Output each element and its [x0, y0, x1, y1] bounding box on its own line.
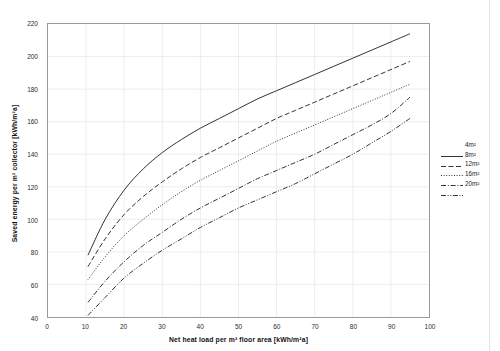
- legend-line-sample-icon: [441, 173, 463, 174]
- x-axis-tick-label: 40: [180, 323, 220, 330]
- legend-line-sample-icon: [441, 183, 463, 184]
- y-axis-tick-label: 60: [8, 282, 38, 289]
- data-series-lines: [48, 24, 429, 317]
- y-axis-group: Saved energy per m² collector [kWh/m²a] …: [0, 0, 47, 351]
- y-axis-tick-label: 40: [8, 315, 38, 322]
- y-axis-tick-label: 220: [8, 20, 38, 27]
- y-axis-title: Saved energy per m² collector [kWh/m²a]: [11, 74, 18, 274]
- legend-line-sample-icon: [441, 154, 463, 155]
- x-axis-tick-label: 60: [257, 323, 297, 330]
- legend-item-label: 12m²: [465, 159, 479, 168]
- legend-item-label: 20m²: [465, 179, 479, 188]
- legend-line-sample-icon: [441, 144, 463, 145]
- series-line-1: [88, 61, 410, 266]
- series-line-3: [88, 97, 410, 302]
- y-axis-tick-label: 120: [8, 183, 38, 190]
- x-axis-tick-label: 30: [142, 323, 182, 330]
- y-axis-tick-label: 160: [8, 118, 38, 125]
- x-axis-tick-label: 100: [410, 323, 450, 330]
- legend-line-sample-icon: [441, 163, 463, 164]
- y-axis-tick-label: 200: [8, 52, 38, 59]
- plot-area: [47, 23, 430, 318]
- y-axis-tick-label: 180: [8, 85, 38, 92]
- x-axis-tick-label: 90: [372, 323, 412, 330]
- y-axis-tick-label: 140: [8, 151, 38, 158]
- y-axis-tick-label: 100: [8, 216, 38, 223]
- series-line-2: [88, 84, 410, 279]
- legend-item[interactable]: 4m²: [441, 140, 497, 150]
- x-axis-title: Net heat load per m² floor area [kWh/m²a…: [47, 336, 430, 343]
- chart-figure: Saved energy per m² collector [kWh/m²a] …: [0, 0, 500, 351]
- legend-item-label: 4m²: [465, 140, 476, 149]
- chart-legend: 4m²8m²12m²16m²20m²: [441, 140, 497, 188]
- series-line-0: [88, 34, 410, 255]
- x-axis-tick-label: 50: [219, 323, 259, 330]
- x-axis-tick-label: 10: [65, 323, 105, 330]
- legend-item-label: 16m²: [465, 169, 479, 178]
- series-line-4: [88, 118, 410, 315]
- x-axis-tick-label: 0: [27, 323, 67, 330]
- legend-item-label: 8m²: [465, 150, 476, 159]
- x-axis-tick-label: 20: [104, 323, 144, 330]
- y-axis-tick-label: 80: [8, 249, 38, 256]
- x-axis-tick-label: 80: [333, 323, 373, 330]
- x-axis-tick-label: 70: [295, 323, 335, 330]
